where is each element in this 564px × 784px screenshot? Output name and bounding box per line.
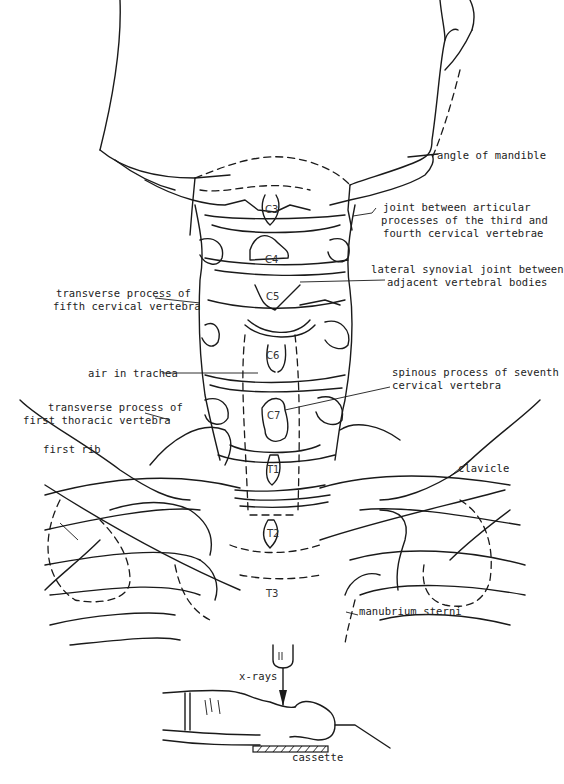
cervical-column: [195, 195, 355, 463]
vertebra-c7: C7: [267, 410, 280, 421]
mandible-outline: [100, 0, 474, 235]
label-articular-joint-line2: processes of the third and: [381, 214, 548, 227]
label-cassette: cassette: [292, 751, 343, 764]
label-clavicle: clavicle: [458, 462, 509, 475]
label-spinous-c7-line1: spinous process of seventh: [392, 366, 559, 379]
vertebra-c6: C6: [266, 350, 279, 361]
vertebra-c4: C4: [265, 254, 278, 265]
vertebra-t3: T3: [266, 588, 278, 599]
vertebra-t1: T1: [267, 464, 279, 475]
label-first-rib: first rib: [43, 443, 101, 456]
label-manubrium-sterni: manubrium sterni: [359, 605, 462, 618]
label-lateral-synovial-line2: adjacent vertebral bodies: [387, 276, 548, 289]
label-transverse-t1-line1: transverse process of: [48, 401, 183, 414]
vertebra-c5: C5: [266, 291, 279, 302]
label-x-rays: x-rays: [239, 670, 278, 683]
label-transverse-c5-line1: transverse process of: [56, 287, 191, 300]
vertebra-t2: T2: [267, 528, 279, 539]
label-air-in-trachea: air in trachea: [88, 367, 178, 380]
vertebra-c3: C3: [265, 204, 278, 215]
label-transverse-c5-line2: fifth cervical vertebra: [53, 300, 201, 313]
label-lateral-synovial-line1: lateral synovial joint between: [371, 263, 564, 276]
label-spinous-c7-line2: cervical vertebra: [392, 379, 501, 392]
label-angle-of-mandible: angle of mandible: [437, 149, 546, 162]
label-articular-joint-line1: joint between articular: [383, 201, 531, 214]
label-transverse-t1-line2: first thoracic vertebra: [23, 414, 171, 427]
thoracic-vertebrae: [235, 455, 330, 548]
patient-illustration: [163, 691, 390, 752]
label-articular-joint-line3: fourth cervical vertebrae: [383, 227, 544, 240]
shoulder-and-ribs: [20, 400, 540, 645]
